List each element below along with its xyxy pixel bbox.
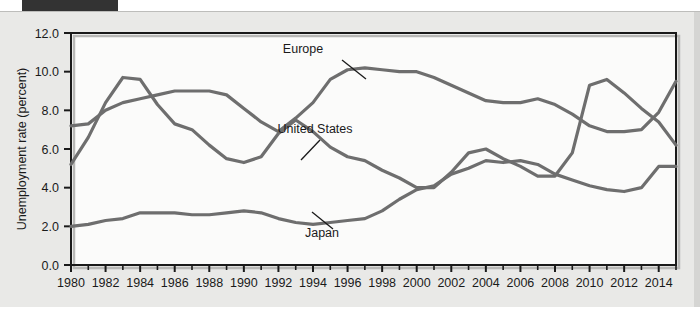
x-tick-label: 2002	[437, 276, 465, 290]
y-tick-label: 8.0	[42, 104, 59, 118]
x-axis-tick-labels: 1980198219841986198819901992199419961998…	[57, 276, 673, 290]
x-tick-label: 2006	[507, 276, 535, 290]
y-axis-tick-labels: 0.02.04.06.08.010.012.0	[35, 27, 59, 273]
x-tick-label: 2010	[576, 276, 604, 290]
y-tick-label: 4.0	[42, 181, 59, 195]
x-tick-label: 2012	[610, 276, 638, 290]
x-tick-label: 1998	[368, 276, 396, 290]
x-tick-label: 2014	[645, 276, 673, 290]
y-tick-label: 10.0	[35, 65, 59, 79]
chart-page: 0.02.04.06.08.010.012.0 1980198219841986…	[0, 0, 700, 318]
y-tick-label: 12.0	[35, 27, 59, 41]
x-tick-label: 1982	[92, 276, 120, 290]
x-tick-label: 1988	[195, 276, 223, 290]
x-tick-label: 1980	[57, 276, 85, 290]
y-axis-ticks	[64, 33, 71, 265]
x-tick-label: 1994	[299, 276, 327, 290]
series-label-united-states: United States	[277, 122, 352, 136]
x-tick-label: 1992	[265, 276, 293, 290]
x-tick-label: 2000	[403, 276, 431, 290]
y-tick-label: 2.0	[42, 220, 59, 234]
series-label-europe: Europe	[283, 42, 323, 56]
x-tick-label: 1984	[126, 276, 154, 290]
y-axis-title: Unemployment rate (percent)	[15, 68, 29, 231]
y-tick-label: 0.0	[42, 259, 59, 273]
y-tick-label: 6.0	[42, 143, 59, 157]
x-tick-label: 2008	[541, 276, 569, 290]
series-label-japan: Japan	[305, 226, 339, 240]
x-tick-label: 1986	[161, 276, 189, 290]
x-tick-label: 2004	[472, 276, 500, 290]
x-tick-label: 1990	[230, 276, 258, 290]
unemployment-rate-line-chart: 0.02.04.06.08.010.012.0 1980198219841986…	[0, 0, 700, 318]
x-tick-label: 1996	[334, 276, 362, 290]
